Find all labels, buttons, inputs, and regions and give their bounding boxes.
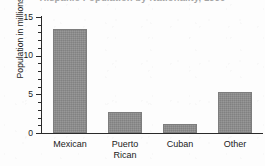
y-tick-minor: [38, 32, 41, 33]
y-tick-major: [36, 133, 41, 134]
chart-title: Hispanic Population by Nationality, 1990: [0, 0, 265, 3]
y-tick-major: [36, 56, 41, 57]
y-tick-label: 10: [9, 51, 33, 60]
y-tick-major: [36, 94, 41, 95]
y-tick-minor: [38, 48, 41, 49]
bar: [53, 29, 87, 133]
bar: [163, 124, 197, 133]
bar: [218, 92, 252, 133]
y-tick-label: 5: [9, 90, 33, 99]
y-tick-minor: [38, 87, 41, 88]
x-tick-label: Other: [203, 139, 265, 150]
y-tick-minor: [38, 25, 41, 26]
y-tick-minor: [38, 79, 41, 80]
x-axis-line: [41, 133, 263, 134]
y-axis-line: [41, 16, 42, 134]
y-tick-major: [36, 17, 41, 18]
y-tick-minor: [38, 118, 41, 119]
bar-chart-figure: Hispanic Population by Nationality, 1990…: [0, 0, 265, 166]
y-tick-minor: [38, 71, 41, 72]
y-tick-minor: [38, 110, 41, 111]
y-tick-minor: [38, 125, 41, 126]
y-tick-label: 15: [9, 13, 33, 22]
bar: [108, 112, 142, 133]
y-tick-minor: [38, 63, 41, 64]
y-tick-minor: [38, 40, 41, 41]
y-tick-minor: [38, 102, 41, 103]
y-tick-label: 0: [9, 129, 33, 138]
